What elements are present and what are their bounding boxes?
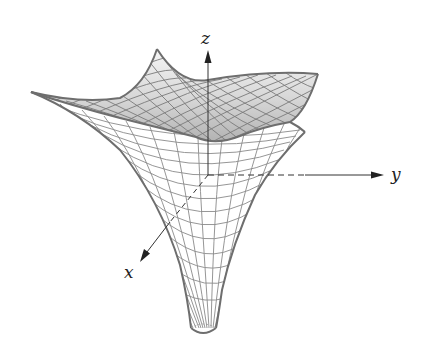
y-axis-arrowhead: [371, 172, 384, 179]
y-axis-label: y: [391, 166, 401, 183]
z-axis-label: z: [201, 30, 210, 47]
x-axis-arrowhead: [140, 249, 150, 262]
x-axis-label: x: [124, 264, 134, 281]
x-axis: [147, 222, 170, 252]
z-axis-arrowhead: [205, 50, 212, 63]
surface-figure: [0, 0, 422, 346]
